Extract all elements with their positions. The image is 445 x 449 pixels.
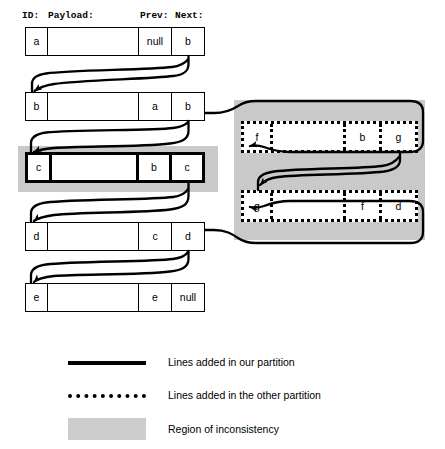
legend-label-other-partition: Lines added in the other partition xyxy=(168,389,321,401)
legend-label-inconsistency: Region of inconsistency xyxy=(168,423,279,435)
diagram-canvas: ID: Payload: Prev: Next: anullbbabcbcdcd… xyxy=(0,0,445,449)
legend-swatch-solid-line xyxy=(68,361,146,365)
legend-swatch-region xyxy=(68,418,146,440)
legend: Lines added in our partition Lines added… xyxy=(0,0,445,449)
legend-swatch-dotted-line xyxy=(68,394,146,398)
legend-label-our-partition: Lines added in our partition xyxy=(168,356,295,368)
